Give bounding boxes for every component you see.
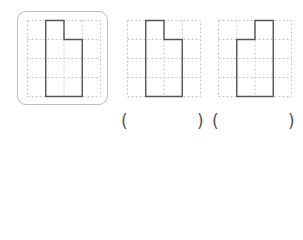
answer-a-open-paren: ( (121, 111, 128, 131)
answer-b-blank[interactable] (232, 111, 288, 131)
answer-a-blank[interactable] (141, 111, 197, 131)
answer-b-open-paren: ( (212, 111, 219, 131)
answer-a-close-paren: ) (197, 111, 204, 131)
answer-b-close-paren: ) (288, 111, 295, 131)
